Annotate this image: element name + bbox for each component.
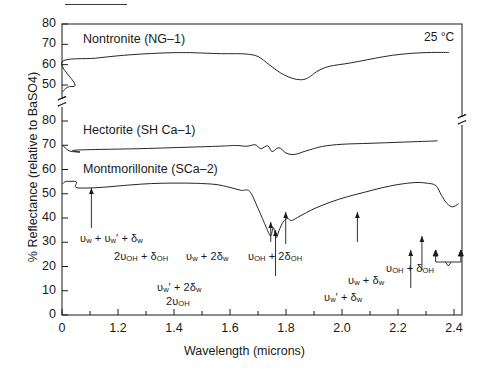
spectra-plot xyxy=(0,0,489,374)
y-tick-label-lower: 30 xyxy=(20,234,56,248)
annotation-arrow-head xyxy=(268,222,273,228)
y-tick-label-lower: 10 xyxy=(20,283,56,297)
y-tick-label-lower: 0 xyxy=(20,307,56,321)
x-tick-label: 2.0 xyxy=(317,321,367,335)
x-tick-label: 2.2 xyxy=(373,321,423,335)
spectrum-curve-lower_upper xyxy=(63,141,437,155)
band-label-a8: υw + δw xyxy=(348,274,384,287)
y-tick-label-lower: 80 xyxy=(20,113,56,127)
y-tick-label-upper: 80 xyxy=(20,16,56,30)
x-tick-label: 1.2 xyxy=(93,321,143,335)
annotation-arrow-head xyxy=(283,212,288,218)
x-axis-title-text: Wavelength (microns) xyxy=(184,344,305,358)
y-tick-label-upper: 70 xyxy=(20,36,56,50)
temperature-note: 25 °C xyxy=(424,30,454,44)
band-label-a1: υw + υw′ + δw xyxy=(80,232,143,245)
series-label-hectorite: Hectorite (SH Ca–1) xyxy=(83,123,196,137)
band-label-a4: 2υOH xyxy=(166,295,190,308)
y-tick-label-upper: 50 xyxy=(20,77,56,91)
annotation-bracket-centre xyxy=(445,262,451,266)
y-tick-label-lower: 60 xyxy=(20,162,56,176)
annotation-arrow-head xyxy=(273,230,278,236)
annotation-arrow-head xyxy=(433,250,438,256)
x-tick-label: 0 xyxy=(37,321,87,335)
y-tick-label-lower: 20 xyxy=(20,259,56,273)
x-tick-label: 1.8 xyxy=(261,321,311,335)
x-axis-title: Wavelength (microns) xyxy=(0,344,489,358)
y-tick-label-lower: 70 xyxy=(20,137,56,151)
y-tick-label-lower: 40 xyxy=(20,210,56,224)
spectrum-curve-upper xyxy=(61,52,448,91)
band-label-a9: υOH + δOH xyxy=(386,262,434,275)
x-tick-label: 2.4 xyxy=(429,321,479,335)
band-label-a3: υw′ + 2δw xyxy=(157,281,202,294)
series-label-montmorillonite: Montmorillonite (SCa–2) xyxy=(83,162,218,176)
spectrum-curve-lower xyxy=(63,181,458,237)
series-label-nontronite: Nontronite (NG–1) xyxy=(83,32,185,46)
annotation-arrow-head xyxy=(89,188,94,194)
band-label-a6: υOH + 2δOH xyxy=(248,250,302,263)
x-tick-label: 1.4 xyxy=(149,321,199,335)
y-tick-label-upper: 60 xyxy=(20,57,56,71)
annotation-arrow-head xyxy=(458,250,463,256)
band-label-a2: 2υOH + δOH xyxy=(114,250,168,263)
annotation-arrow-head xyxy=(408,250,413,256)
band-label-a5: υw + 2δw xyxy=(186,250,228,263)
annotation-arrow-head xyxy=(420,236,425,242)
figure-root: % Reflectance (relative to BaSO4) Wavele… xyxy=(0,0,489,374)
y-tick-label-lower: 50 xyxy=(20,186,56,200)
band-label-a7: υw′ + δw xyxy=(324,291,362,304)
annotation-arrow-head xyxy=(355,212,360,218)
x-tick-label: 1.6 xyxy=(205,321,255,335)
